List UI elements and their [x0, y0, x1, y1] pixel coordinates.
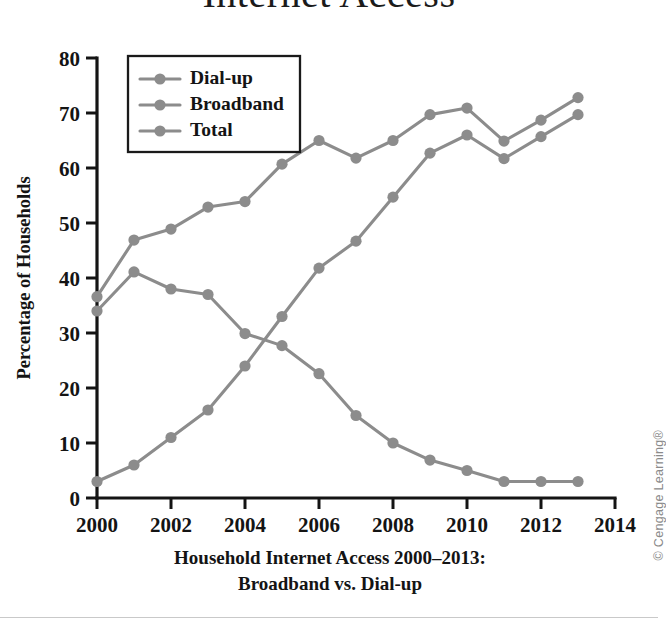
data-point-broadband-2006 [313, 263, 324, 274]
x-tick-label: 2008 [372, 513, 414, 537]
data-point-total-2005 [276, 159, 287, 170]
data-point-dial-up-2004 [239, 328, 250, 339]
y-tick-label: 60 [59, 157, 80, 181]
data-point-total-2012 [535, 115, 546, 126]
y-tick-label: 70 [59, 102, 80, 126]
y-axis-ticks: 01020304050607080 [59, 47, 97, 511]
data-point-dial-up-2013 [572, 476, 583, 487]
y-tick-label: 40 [59, 267, 80, 291]
caption-line-2: Broadband vs. Dial-up [60, 571, 600, 597]
data-point-dial-up-2011 [498, 476, 509, 487]
data-point-total-2009 [424, 109, 435, 120]
data-point-broadband-2009 [424, 148, 435, 159]
legend-marker-2 [154, 125, 165, 136]
data-point-dial-up-2009 [424, 454, 435, 465]
data-point-dial-up-2007 [350, 410, 361, 421]
y-tick-label: 0 [70, 487, 81, 511]
data-point-broadband-2000 [91, 476, 102, 487]
data-point-broadband-2013 [572, 109, 583, 120]
data-point-dial-up-2001 [128, 266, 139, 277]
data-point-dial-up-2008 [387, 437, 398, 448]
data-point-dial-up-2006 [313, 368, 324, 379]
data-point-dial-up-2012 [535, 476, 546, 487]
x-tick-label: 2010 [446, 513, 488, 537]
y-axis-title: Percentage of Households [14, 176, 34, 379]
data-point-broadband-2011 [498, 153, 509, 164]
data-point-total-2000 [91, 291, 102, 302]
data-point-broadband-2010 [461, 129, 472, 140]
x-tick-label: 2014 [594, 513, 637, 537]
data-point-total-2013 [572, 92, 583, 103]
data-point-dial-up-2010 [461, 465, 472, 476]
data-point-total-2002 [165, 223, 176, 234]
data-point-dial-up-2002 [165, 283, 176, 294]
figure-caption: Household Internet Access 2000–2013: Bro… [60, 545, 600, 596]
legend-marker-0 [154, 73, 165, 84]
data-point-broadband-2001 [128, 459, 139, 470]
data-point-broadband-2005 [276, 311, 287, 322]
x-tick-label: 2004 [224, 513, 267, 537]
x-tick-label: 2006 [298, 513, 340, 537]
data-point-broadband-2007 [350, 236, 361, 247]
legend-label-broadband: Broadband [190, 93, 284, 114]
x-tick-label: 2000 [76, 513, 118, 537]
data-point-total-2010 [461, 102, 472, 113]
legend-label-dial-up: Dial-up [190, 67, 253, 88]
data-point-total-2006 [313, 135, 324, 146]
y-tick-label: 20 [59, 377, 80, 401]
chart-legend: Dial-upBroadbandTotal [128, 56, 300, 152]
data-point-broadband-2003 [202, 404, 213, 415]
x-tick-label: 2012 [520, 513, 562, 537]
legend-marker-1 [154, 99, 165, 110]
y-tick-label: 80 [59, 47, 80, 71]
series-line-dial-up [97, 272, 578, 482]
y-tick-label: 50 [59, 212, 80, 236]
data-point-broadband-2008 [387, 192, 398, 203]
copyright-credit: © Cengage Learning® [652, 430, 666, 560]
data-point-total-2004 [239, 196, 250, 207]
x-axis-ticks: 20002002200420062008201020122014 [76, 498, 637, 537]
x-tick-label: 2002 [150, 513, 192, 537]
y-tick-label: 10 [59, 432, 80, 456]
caption-line-1: Household Internet Access 2000–2013: [60, 545, 600, 571]
data-point-broadband-2002 [165, 432, 176, 443]
y-tick-label: 30 [59, 322, 80, 346]
data-point-broadband-2012 [535, 131, 546, 142]
data-point-dial-up-2000 [91, 305, 102, 316]
series-line-broadband [97, 115, 578, 482]
data-point-total-2008 [387, 135, 398, 146]
data-point-total-2011 [498, 135, 509, 146]
data-point-total-2001 [128, 234, 139, 245]
legend-label-total: Total [190, 119, 233, 140]
data-point-total-2003 [202, 201, 213, 212]
data-point-total-2007 [350, 153, 361, 164]
data-point-dial-up-2005 [276, 340, 287, 351]
data-point-broadband-2004 [239, 360, 250, 371]
data-point-dial-up-2003 [202, 289, 213, 300]
